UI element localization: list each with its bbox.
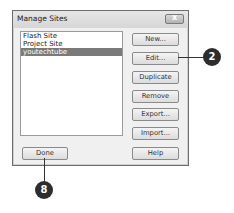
list-item-selected[interactable]: youtechtube xyxy=(21,48,122,56)
callout-2-leader-line xyxy=(178,57,204,58)
title-bar: Manage Sites x xyxy=(13,11,188,28)
close-button[interactable]: x xyxy=(165,14,184,24)
close-icon: x xyxy=(166,13,183,22)
list-item[interactable]: Flash Site xyxy=(21,32,122,40)
callout-2-badge: 2 xyxy=(203,48,221,66)
sites-listbox[interactable]: Flash Site Project Site youtechtube xyxy=(20,31,123,136)
callout-8-leader-line xyxy=(44,158,45,182)
done-button[interactable]: Done xyxy=(22,147,68,160)
dialog-title: Manage Sites xyxy=(17,14,67,23)
callout-8-badge: 8 xyxy=(35,181,53,199)
export-button[interactable]: Export... xyxy=(132,108,179,121)
edit-button[interactable]: Edit... xyxy=(132,52,179,65)
import-button[interactable]: Import... xyxy=(132,127,179,140)
remove-button[interactable]: Remove xyxy=(132,90,179,103)
help-button[interactable]: Help xyxy=(132,147,179,160)
list-item[interactable]: Project Site xyxy=(21,40,122,48)
manage-sites-dialog: Manage Sites x Flash Site Project Site y… xyxy=(12,10,189,166)
duplicate-button[interactable]: Duplicate xyxy=(132,71,179,84)
new-button[interactable]: New... xyxy=(132,33,179,46)
